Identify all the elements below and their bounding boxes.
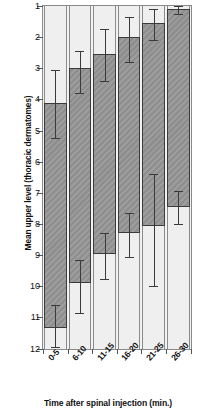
bar[interactable] bbox=[93, 54, 116, 253]
chart-figure: Mean upper level (thoracic dermatomes) 1… bbox=[0, 0, 216, 416]
error-bar-upper bbox=[80, 51, 81, 93]
y-tick-label: 7 bbox=[20, 188, 40, 197]
error-bar-lower bbox=[55, 305, 56, 347]
error-bar-cap-upper-top bbox=[75, 51, 84, 52]
error-bar-upper bbox=[105, 29, 106, 80]
x-axis-title: Time after spinal injection (min.) bbox=[0, 398, 216, 408]
error-bar-cap-upper-bottom bbox=[100, 81, 109, 82]
y-tick-label: 1 bbox=[20, 2, 40, 11]
error-bar-cap-lower-top bbox=[100, 233, 109, 234]
error-bar-cap-upper-top bbox=[100, 29, 109, 30]
x-tick-mark bbox=[166, 349, 167, 354]
error-bar-lower bbox=[129, 213, 130, 257]
error-bar-cap-upper-top bbox=[174, 6, 183, 7]
x-tick-mark bbox=[191, 349, 192, 354]
error-bar-cap-upper-bottom bbox=[75, 93, 84, 94]
y-tick-label: 9 bbox=[20, 251, 40, 260]
error-bar-cap-lower-top bbox=[149, 174, 158, 175]
error-bar-cap-upper-top bbox=[149, 9, 158, 10]
error-bar-upper bbox=[178, 6, 179, 14]
bar[interactable] bbox=[69, 68, 92, 283]
y-tick-label: 10 bbox=[20, 282, 40, 291]
y-tick-label: 5 bbox=[20, 126, 40, 135]
y-tick-label: 11 bbox=[20, 313, 40, 322]
error-bar-cap-lower-top bbox=[125, 213, 134, 214]
error-bar-cap-lower-bottom bbox=[125, 257, 134, 258]
error-bar-lower bbox=[80, 260, 81, 313]
error-bar-upper bbox=[55, 70, 56, 139]
error-bar-cap-upper-bottom bbox=[149, 40, 158, 41]
error-bar-cap-lower-top bbox=[51, 305, 60, 306]
x-tick-mark bbox=[141, 349, 142, 354]
error-bar-lower bbox=[178, 191, 179, 224]
x-tick-mark bbox=[68, 349, 69, 354]
error-bar-upper bbox=[129, 17, 130, 62]
y-tick-label: 2 bbox=[20, 33, 40, 42]
error-bar-cap-upper-bottom bbox=[174, 14, 183, 15]
error-bar-cap-lower-bottom bbox=[149, 286, 158, 287]
error-bar-upper bbox=[154, 9, 155, 40]
bar[interactable] bbox=[118, 37, 141, 233]
error-bar-cap-lower-top bbox=[174, 191, 183, 192]
x-tick-mark bbox=[117, 349, 118, 354]
x-tick-mark bbox=[43, 349, 44, 354]
error-bar-lower bbox=[154, 174, 155, 286]
y-tick-label: 8 bbox=[20, 220, 40, 229]
error-bar-cap-lower-top bbox=[75, 260, 84, 261]
plot-inner: 123456789101112 bbox=[43, 6, 191, 349]
error-bar-cap-lower-bottom bbox=[75, 313, 84, 314]
x-tick-mark bbox=[92, 349, 93, 354]
error-bar-lower bbox=[105, 233, 106, 278]
error-bar-cap-upper-top bbox=[125, 17, 134, 18]
plot-area: 123456789101112 bbox=[42, 5, 192, 350]
error-bar-cap-lower-bottom bbox=[174, 224, 183, 225]
y-tick-label: 12 bbox=[20, 344, 40, 353]
y-tick-label: 4 bbox=[20, 95, 40, 104]
bar[interactable] bbox=[167, 9, 190, 207]
y-tick-label: 3 bbox=[20, 64, 40, 73]
error-bar-cap-lower-bottom bbox=[100, 279, 109, 280]
error-bar-cap-upper-bottom bbox=[125, 62, 134, 63]
error-bar-cap-upper-top bbox=[51, 70, 60, 71]
y-tick-label: 6 bbox=[20, 157, 40, 166]
error-bar-cap-upper-bottom bbox=[51, 138, 60, 139]
